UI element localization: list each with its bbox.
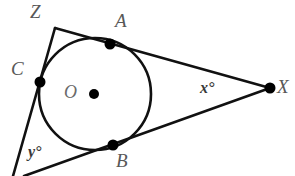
point-dot-x (265, 83, 276, 94)
vertex-label-z: Z (30, 2, 41, 21)
segment-lower-left-to-x (24, 88, 270, 176)
point-label-b: B (116, 151, 128, 170)
point-label-c: C (11, 59, 24, 78)
point-dot-c (35, 77, 46, 88)
geometry-canvas (0, 0, 295, 176)
point-dot-b (108, 140, 119, 151)
angle-label-x: x° (200, 80, 214, 96)
center-label-o: O (64, 83, 77, 101)
angle-label-y: y° (28, 144, 42, 160)
segment-z-to-x (55, 28, 270, 88)
point-dot-a (105, 39, 116, 50)
point-label-a: A (115, 11, 127, 30)
vertex-label-x: X (277, 77, 289, 96)
geometry-figure: Z A C O B X x° y° (0, 0, 295, 176)
center-dot-o (89, 89, 99, 99)
